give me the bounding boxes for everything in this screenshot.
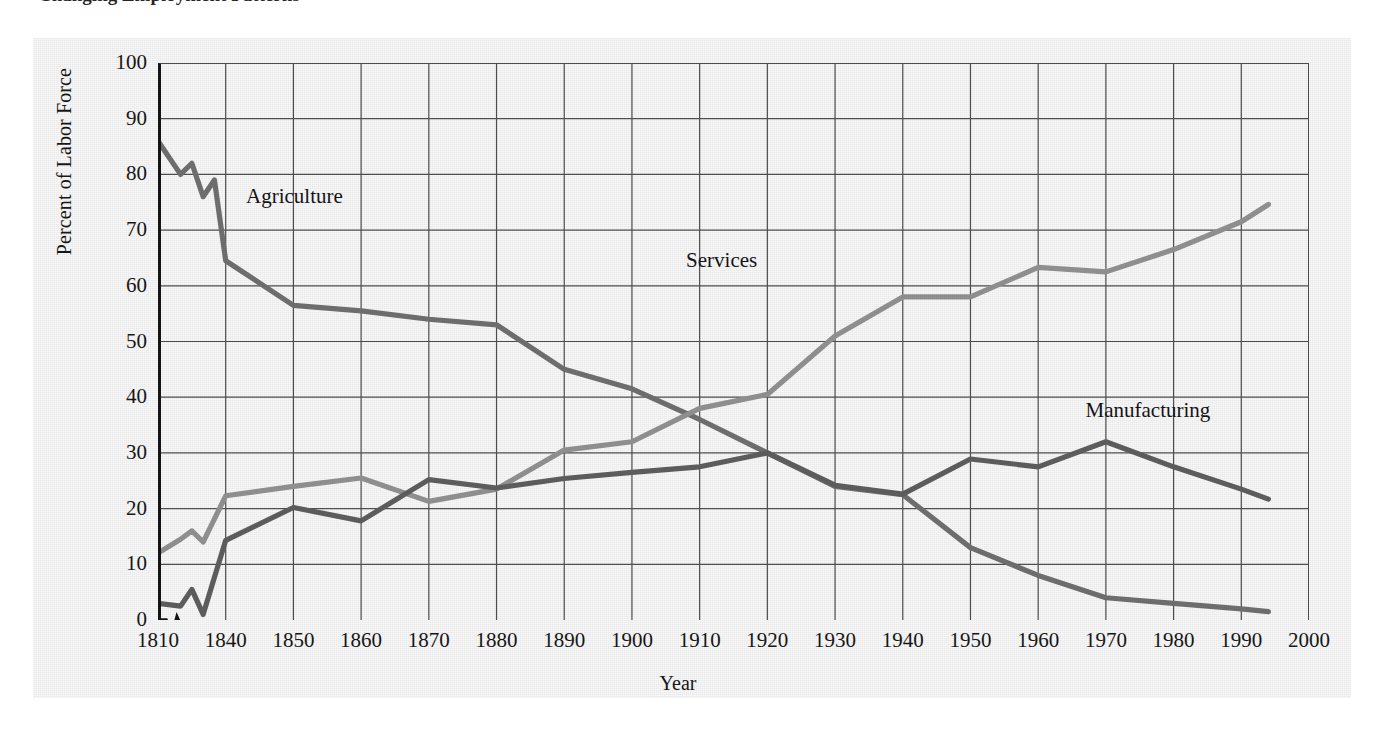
- series-label-manufacturing: Manufacturing: [1086, 400, 1211, 421]
- y-tick-label: 10: [103, 553, 147, 574]
- x-axis-title-label: Year: [660, 672, 697, 695]
- series-label-agriculture: Agriculture: [246, 186, 343, 207]
- series-label-services: Services: [686, 250, 757, 271]
- y-tick-label: 90: [103, 108, 147, 129]
- y-axis-tick-labels: 0102030405060708090100: [85, 38, 147, 698]
- plot-area: [158, 63, 1309, 620]
- figure-caption: Changing Employment Patterns: [38, 0, 300, 6]
- y-tick-label: 80: [103, 163, 147, 184]
- x-axis-tick-labels: 1810184018501860187018801890190019101920…: [33, 630, 1351, 664]
- caption-descenders-clip: Changing Employment Patterns: [0, 0, 1382, 16]
- y-tick-label: 60: [103, 275, 147, 296]
- plot-frame: [158, 63, 1309, 620]
- figure-panel: Percent of Labor Force 01020304050607080…: [33, 38, 1351, 698]
- y-tick-label: 20: [103, 498, 147, 519]
- y-tick-label: 40: [103, 386, 147, 407]
- y-tick-label: 30: [103, 442, 147, 463]
- y-tick-label: 70: [103, 219, 147, 240]
- y-axis-title: Percent of Labor Force: [53, 0, 76, 218]
- x-axis-title: Year: [33, 672, 1351, 695]
- x-tick-label: 2000: [1264, 630, 1354, 651]
- y-tick-label: 100: [103, 52, 147, 73]
- y-tick-label: 50: [103, 331, 147, 352]
- y-tick-label: 0: [103, 609, 147, 630]
- y-axis-title-label: Percent of Labor Force: [53, 68, 76, 255]
